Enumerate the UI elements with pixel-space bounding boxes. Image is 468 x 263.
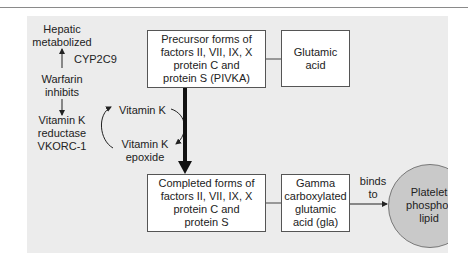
cycle-arc-left — [101, 107, 113, 148]
carboxylation-arrowhead — [178, 161, 192, 174]
diagram-connectors — [27, 16, 448, 253]
top-rule — [0, 7, 468, 8]
cycle-arc-right — [171, 109, 185, 144]
diagram-panel: Hepatic metabolized CYP2C9 Warfarin inhi… — [27, 16, 448, 253]
